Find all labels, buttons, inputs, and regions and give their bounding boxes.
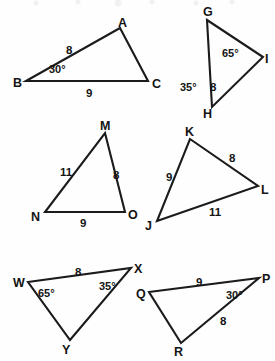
side-length-label: 11 bbox=[209, 207, 221, 219]
side-length-label: 8 bbox=[210, 82, 216, 94]
vertex-label-r: R bbox=[174, 346, 183, 359]
side-length-label: 8 bbox=[229, 153, 235, 165]
angle-measure-label: 30° bbox=[226, 290, 243, 301]
vertex-label-b: B bbox=[13, 77, 22, 90]
triangle-ghi bbox=[207, 20, 263, 107]
vertex-label-c: C bbox=[152, 78, 161, 91]
vertex-label-j: J bbox=[145, 220, 152, 233]
vertex-label-g: G bbox=[203, 6, 213, 19]
triangle-pqr bbox=[149, 278, 259, 343]
angle-measure-label: 65° bbox=[222, 48, 239, 59]
geometry-figure: ABC8930°GHI865°35°MNO1189KLJ8911WXY865°3… bbox=[0, 0, 275, 361]
angle-measure-label: 35° bbox=[180, 82, 197, 93]
vertex-label-a: A bbox=[118, 17, 127, 30]
vertex-label-q: Q bbox=[136, 288, 146, 301]
vertex-label-h: H bbox=[203, 108, 212, 121]
vertex-label-o: O bbox=[128, 209, 138, 222]
angle-measure-label: 30° bbox=[49, 64, 66, 75]
side-length-label: 9 bbox=[196, 277, 202, 289]
vertex-label-x: X bbox=[134, 263, 142, 276]
side-length-label: 8 bbox=[66, 45, 72, 57]
side-length-label: 8 bbox=[113, 170, 119, 182]
angle-measure-label: 35° bbox=[99, 281, 116, 292]
triangle-wxy bbox=[28, 268, 131, 340]
vertex-label-n: N bbox=[31, 211, 40, 224]
side-length-label: 9 bbox=[166, 172, 172, 184]
side-length-label: 11 bbox=[60, 167, 72, 179]
angle-measure-label: 65° bbox=[38, 288, 55, 299]
side-length-label: 9 bbox=[80, 218, 86, 230]
vertex-label-y: Y bbox=[62, 344, 70, 357]
side-length-label: 8 bbox=[75, 267, 81, 279]
side-length-label: 8 bbox=[220, 316, 226, 328]
vertex-label-w: W bbox=[13, 277, 25, 290]
vertex-label-k: K bbox=[185, 126, 194, 139]
vertex-label-i: I bbox=[265, 53, 268, 66]
side-length-label: 9 bbox=[86, 88, 92, 100]
triangle-abc bbox=[26, 28, 148, 81]
vertex-label-m: M bbox=[100, 120, 110, 133]
vertex-label-p: P bbox=[262, 273, 270, 286]
vertex-label-l: L bbox=[261, 184, 269, 197]
